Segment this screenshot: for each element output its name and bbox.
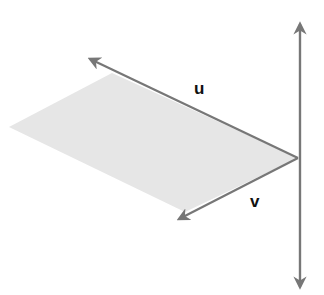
label-u: u	[194, 80, 204, 97]
diagram-canvas	[0, 0, 324, 295]
label-v: v	[250, 193, 259, 210]
cross-product-diagram: u v	[0, 0, 324, 295]
